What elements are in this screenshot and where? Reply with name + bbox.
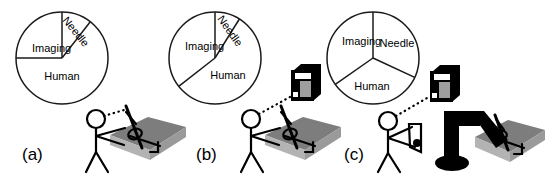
pie-b-label-human: Human <box>210 69 245 81</box>
pie-a-label-human: Human <box>44 70 79 82</box>
pie-a-label-imaging: Imaging <box>32 42 71 54</box>
scene-b-monitor-icon[interactable] <box>291 64 321 101</box>
pie-b-label-imaging: Imaging <box>185 40 224 52</box>
scene-c-monitor-screen-top <box>434 74 450 80</box>
panel-b-caption: (b) <box>196 145 217 164</box>
figure-canvas: Imaging Needle Human (a) <box>0 0 553 176</box>
pie-chart-a: Imaging Needle Human <box>16 12 108 104</box>
panel-c-caption: (c) <box>344 145 364 164</box>
figure-container: Imaging Needle Human (a) <box>0 0 553 176</box>
pie-c-label-human: Human <box>354 80 389 92</box>
pie-c-label-needle: Needle <box>380 37 415 49</box>
pie-chart-c: Imaging Needle Human <box>327 12 419 104</box>
scene-c-monitor-icon[interactable] <box>430 65 460 102</box>
pie-chart-b: Imaging Needle Human <box>169 12 261 104</box>
scene-b-monitor-indicator <box>293 92 298 97</box>
scene-c-monitor-indicator <box>432 93 437 98</box>
scene-c-monitor-screen-main <box>439 82 450 98</box>
scene-c-tablet-button <box>413 139 421 147</box>
scene-b-monitor-screen-top <box>295 73 311 79</box>
scene-b-monitor-screen-main <box>300 81 311 97</box>
panel-a-caption: (a) <box>22 145 43 164</box>
pie-c-label-imaging: Imaging <box>342 35 381 47</box>
